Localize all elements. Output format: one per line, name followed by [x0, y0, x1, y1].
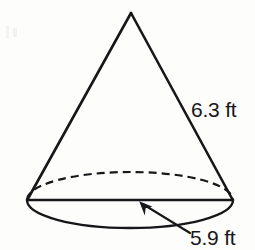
scan-artifact	[13, 28, 17, 37]
base-front-arc	[27, 200, 233, 228]
base-hidden-arc	[27, 172, 233, 200]
cone-drawing	[0, 0, 255, 250]
scan-artifact	[6, 26, 9, 38]
diameter-leader-line	[144, 205, 191, 234]
slant-height-label: 6.3 ft	[191, 99, 237, 120]
base-diameter-label: 5.9 ft	[190, 227, 236, 248]
cone-diagram: 6.3 ft 5.9 ft	[0, 0, 255, 250]
